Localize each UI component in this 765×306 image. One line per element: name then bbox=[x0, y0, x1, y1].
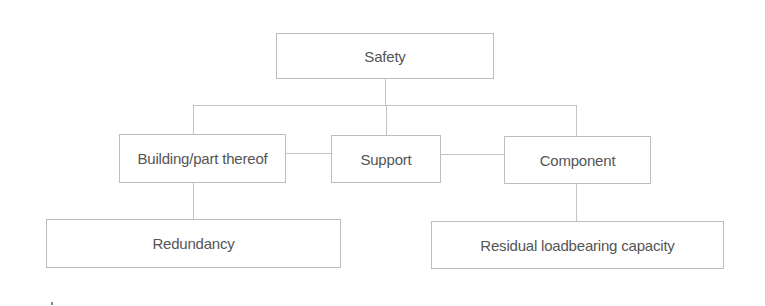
node-redundancy: Redundancy bbox=[46, 219, 341, 268]
connector-support-component bbox=[440, 154, 504, 155]
scan-artifact-mark bbox=[51, 302, 53, 305]
node-component-label: Component bbox=[540, 152, 616, 169]
connector-to-building bbox=[193, 105, 194, 134]
node-building-part-thereof: Building/part thereof bbox=[119, 134, 286, 183]
connector-building-redundancy bbox=[193, 182, 194, 219]
connector-to-component bbox=[576, 105, 577, 136]
connector-top-horizontal bbox=[193, 105, 577, 106]
node-component: Component bbox=[504, 136, 651, 184]
connector-to-support bbox=[386, 105, 387, 135]
node-redundancy-label: Redundancy bbox=[152, 235, 234, 252]
safety-hierarchy-diagram: Safety Building/part thereof Support Com… bbox=[0, 0, 765, 306]
node-building-label: Building/part thereof bbox=[137, 150, 267, 167]
connector-safety-down bbox=[385, 78, 386, 105]
node-residual-label: Residual loadbearing capacity bbox=[480, 237, 674, 254]
node-support: Support bbox=[331, 135, 441, 183]
connector-building-support bbox=[285, 153, 331, 154]
node-residual-loadbearing-capacity: Residual loadbearing capacity bbox=[431, 221, 724, 269]
node-safety: Safety bbox=[276, 33, 494, 79]
node-safety-label: Safety bbox=[364, 48, 405, 65]
connector-component-residual bbox=[576, 183, 577, 221]
node-support-label: Support bbox=[360, 151, 411, 168]
